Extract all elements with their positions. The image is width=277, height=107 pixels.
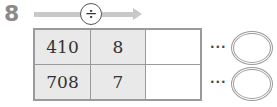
ellipsis: ···	[210, 40, 227, 54]
remainder-circle-input[interactable]	[231, 67, 273, 101]
dividend-cell: 708	[34, 65, 91, 101]
division-operator-icon: ÷	[80, 3, 102, 25]
table-row: 410 8	[34, 29, 201, 65]
table-row: 708 7	[34, 65, 201, 101]
arrow-right-icon	[133, 8, 142, 20]
ellipsis: ···	[210, 75, 227, 89]
problem-number: 8	[4, 2, 19, 26]
remainder-circle-input[interactable]	[231, 31, 273, 65]
dividend-cell: 410	[34, 29, 91, 65]
divisor-cell: 7	[91, 65, 146, 101]
quotient-input[interactable]	[146, 65, 202, 101]
divisor-cell: 8	[91, 29, 146, 65]
division-table: 410 8 708 7	[33, 28, 202, 101]
quotient-input[interactable]	[146, 29, 202, 65]
